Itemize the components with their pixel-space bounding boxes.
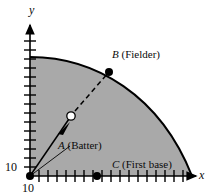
diagram-svg — [0, 0, 212, 196]
point-marker-b — [105, 68, 113, 76]
point-marker-c — [93, 172, 101, 180]
figure-canvas: y x B (Fielder) A (Batter) C (First base… — [0, 0, 212, 196]
point-label-a: A (Batter) — [58, 140, 102, 151]
point-desc-a: (Batter) — [67, 139, 101, 151]
point-label-b: B (Fielder) — [112, 49, 160, 60]
y-axis-label: y — [29, 4, 34, 16]
point-desc-b: (Fielder) — [121, 48, 159, 60]
baseball-icon — [67, 112, 75, 120]
point-label-c: C (First base) — [112, 159, 172, 170]
point-letter-c: C — [112, 158, 119, 170]
point-desc-c: (First base) — [122, 158, 172, 170]
x-origin-tick-label: 10 — [22, 182, 34, 194]
point-letter-b: B — [112, 48, 119, 60]
x-axis-label: x — [199, 169, 204, 181]
y-origin-tick-label: 10 — [5, 161, 17, 173]
point-marker-a — [26, 172, 34, 180]
point-letter-a: A — [58, 139, 65, 151]
